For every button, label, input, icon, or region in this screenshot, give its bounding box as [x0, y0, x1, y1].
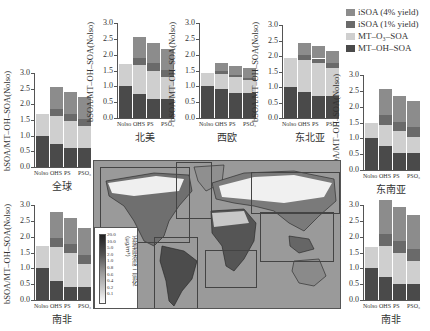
chart-title: 西欧	[199, 129, 255, 144]
x-tick-label: Nolso	[282, 121, 296, 127]
colorbar-tick: 1.0	[107, 258, 116, 265]
bar-segment	[407, 284, 420, 300]
bar-ps	[229, 66, 242, 118]
legend-label: iSOA (1% yield)	[358, 18, 419, 30]
x-tick-label: PSO₃	[78, 170, 91, 176]
y-tick-mark	[31, 284, 34, 285]
bar-segment	[147, 43, 160, 64]
y-tick-mark	[114, 55, 117, 56]
y-tick-label: 1.5	[179, 67, 195, 75]
y-tick-label: 0.0	[262, 114, 278, 122]
y-tick-mark	[196, 55, 199, 56]
x-tick-label: OHS	[379, 303, 391, 309]
bar-pso₃	[78, 228, 91, 300]
bar-segment	[78, 255, 91, 264]
colorbar-tick: 2.0	[107, 252, 116, 259]
x-tick-label: PSO₃	[407, 303, 420, 309]
bar-segment	[393, 253, 406, 284]
y-tick-mark	[114, 23, 117, 24]
bar-nolso	[36, 114, 49, 167]
bar-segment	[407, 101, 420, 127]
y-tick-label: 1.0	[343, 134, 359, 142]
bar-segment	[407, 261, 420, 284]
bar-ohs	[379, 89, 392, 170]
colorbar-tick: 5.0	[107, 245, 116, 252]
y-tick-mark	[31, 120, 34, 121]
y-axis-label: bSOA/MT–OH–SOA(Nolso)	[250, 22, 260, 122]
y-tick-mark	[360, 205, 363, 206]
bar-segment	[312, 96, 325, 118]
y-axis-label: bSOA/MT–OH–SOA(Nolso)	[331, 74, 341, 174]
y-tick-label: 2.5	[262, 37, 278, 45]
bar-ps	[312, 46, 325, 118]
x-tick-label: PS	[64, 303, 71, 309]
colorbar-ticks: 20.0 10.0 5.0 2.0 1.0 0.8 0.6 0.4 0.2 0.…	[107, 232, 116, 298]
y-tick-label: 1.0	[97, 82, 113, 90]
bar-segment	[133, 58, 146, 65]
y-tick-mark	[114, 39, 117, 40]
bar-segment	[36, 268, 49, 300]
bar-segment	[298, 43, 311, 55]
bar-segment	[78, 264, 91, 288]
bar-segment	[298, 60, 311, 92]
bar-segment	[379, 89, 392, 115]
bar-segment	[215, 71, 228, 73]
bar-nolso	[119, 64, 132, 118]
y-tick-mark	[360, 75, 363, 76]
bar-segment	[407, 137, 420, 153]
bar-segment	[215, 63, 228, 72]
x-tick-label: PS	[393, 173, 400, 179]
bar-segment	[201, 73, 214, 86]
bar-segment	[133, 37, 146, 58]
y-tick-label: 1.0	[14, 132, 30, 140]
y-tick-label: 3.0	[14, 201, 30, 209]
colorbar-tick: 20.0	[107, 232, 116, 239]
y-tick-label: 2.0	[97, 51, 113, 59]
x-tick-label: Nolso	[34, 303, 48, 309]
bar-segment	[64, 92, 77, 114]
y-tick-label: 2.0	[14, 233, 30, 241]
x-tick-label: PSO₃	[78, 303, 91, 309]
bar-nolso	[201, 73, 214, 118]
bar-segment	[284, 87, 297, 118]
y-tick-label: 2.0	[14, 100, 30, 108]
chart-title: 南非	[34, 311, 90, 326]
bar-ohs	[133, 37, 146, 118]
bar-segment	[379, 234, 392, 246]
bar-segment	[365, 138, 378, 170]
plot-area	[34, 73, 91, 168]
bar-nolso	[284, 58, 297, 118]
y-tick-label: 3.0	[343, 71, 359, 79]
bar-segment	[50, 281, 63, 300]
bar-segment	[36, 246, 49, 269]
bar-segment	[393, 122, 406, 132]
bar-segment	[147, 63, 160, 70]
y-tick-mark	[31, 221, 34, 222]
x-tick-label: Nolso	[117, 121, 131, 127]
y-tick-mark	[31, 73, 34, 74]
y-axis-label: bSOA/MT–OH–SOA(Nolso)	[2, 71, 12, 171]
y-tick-label: 0.0	[14, 163, 30, 171]
bar-segment	[393, 207, 406, 241]
bar-segment	[379, 277, 392, 300]
bar-pso₃	[407, 101, 420, 170]
colorbar-tick: 0.8	[107, 265, 116, 272]
bar-ohs	[298, 43, 311, 118]
legend-item-isoa-1: iSOA (1% yield)	[346, 18, 419, 30]
region-box-south-america	[154, 237, 198, 309]
bar-segment	[50, 116, 63, 144]
y-tick-mark	[31, 104, 34, 105]
x-tick-label: PS	[64, 170, 71, 176]
bar-ohs	[379, 200, 392, 300]
bar-segment	[379, 146, 392, 170]
legend-swatch	[346, 45, 355, 52]
chart-global: 0.00.51.01.52.02.53.0bSOA/MT–OH–SOA(Nols…	[34, 73, 90, 167]
bar-segment	[379, 200, 392, 234]
y-tick-label: 2.5	[179, 35, 195, 43]
y-tick-label: 2.5	[97, 35, 113, 43]
region-box-southeast-asia	[260, 212, 334, 262]
bar-segment	[133, 94, 146, 118]
bar-segment	[50, 109, 63, 116]
y-tick-label: 1.5	[343, 119, 359, 127]
y-tick-mark	[360, 300, 363, 301]
